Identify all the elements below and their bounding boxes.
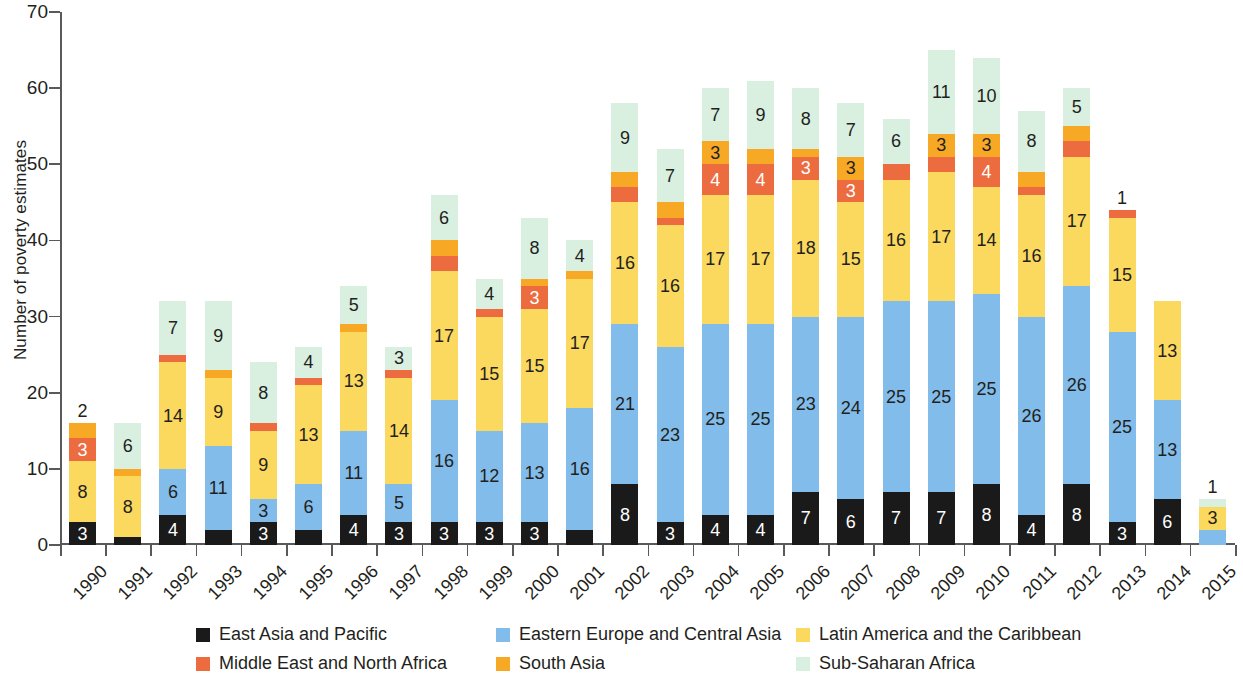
legend-swatch-icon xyxy=(496,657,510,671)
bar-1993[interactable]: 211919 xyxy=(205,301,232,545)
bar-2000[interactable]: 31315318 xyxy=(521,218,548,545)
bar-1997[interactable]: 351413 xyxy=(385,347,412,545)
segment-value: 6 xyxy=(304,498,314,516)
legend-label: Sub-Saharan Africa xyxy=(819,653,975,674)
x-axis-label-1992: 1992 xyxy=(145,561,202,618)
x-axis-label-1993: 1993 xyxy=(190,561,247,618)
x-axis-tick xyxy=(150,545,152,556)
bar-2010[interactable]: 825144310 xyxy=(973,58,1000,545)
bar-segment: 10 xyxy=(973,58,1000,134)
segment-value: 4 xyxy=(710,521,720,539)
legend-item[interactable]: South Asia xyxy=(496,649,796,678)
bar-segment: 1 xyxy=(1199,499,1226,507)
bar-segment: 26 xyxy=(1018,317,1045,515)
segment-value: 7 xyxy=(801,509,811,527)
bar-2006[interactable]: 72318318 xyxy=(792,88,819,545)
segment-value: 25 xyxy=(976,380,996,398)
bar-segment: 23 xyxy=(792,317,819,492)
bar-segment: 2 xyxy=(295,530,322,545)
bar-2012[interactable]: 82617225 xyxy=(1063,88,1090,545)
bar-segment: 25 xyxy=(702,324,729,514)
y-axis-tick-label: 30 xyxy=(10,306,48,328)
bar-1996[interactable]: 4111315 xyxy=(340,286,367,545)
bar-segment: 3 xyxy=(385,522,412,545)
bar-segment: 2 xyxy=(1063,141,1090,156)
bar-1991[interactable]: 1816 xyxy=(114,423,141,545)
bar-2011[interactable]: 42616128 xyxy=(1018,111,1045,545)
bar-1999[interactable]: 3121514 xyxy=(476,279,503,545)
bar-segment: 3 xyxy=(69,438,96,461)
segment-value: 9 xyxy=(213,327,223,345)
y-axis-tick-label: 60 xyxy=(10,77,48,99)
bar-segment: 3 xyxy=(792,157,819,180)
segment-value: 9 xyxy=(620,129,630,147)
bar-segment: 2 xyxy=(431,256,458,271)
segment-value: 3 xyxy=(258,525,268,543)
legend-item[interactable]: East Asia and Pacific xyxy=(196,620,496,649)
segment-value: 3 xyxy=(1207,509,1217,527)
bar-segment: 2 xyxy=(928,157,955,172)
bar-2013[interactable]: 325151 xyxy=(1109,210,1136,545)
x-axis-label-2004: 2004 xyxy=(687,561,744,618)
legend-item[interactable]: Latin America and the Caribbean xyxy=(796,620,1126,649)
bar-segment: 25 xyxy=(1109,332,1136,522)
bar-segment: 4 xyxy=(340,515,367,545)
y-axis-tick xyxy=(49,87,60,89)
x-axis-tick xyxy=(602,545,604,556)
segment-value: 10 xyxy=(976,87,996,105)
y-axis-tick-label: 10 xyxy=(10,458,48,480)
bar-segment: 3 xyxy=(250,522,277,545)
segment-value: 11 xyxy=(209,479,228,497)
x-axis-tick xyxy=(60,545,62,556)
segment-value: 14 xyxy=(389,422,409,440)
segment-value: 5 xyxy=(1072,98,1082,116)
bar-segment: 3 xyxy=(1109,522,1136,545)
bar-1995[interactable]: 261314 xyxy=(295,347,322,545)
bar-segment: 8 xyxy=(1018,111,1045,172)
plot-area: 010203040506070 383218164614172119193391… xyxy=(60,12,1235,545)
segment-value: 11 xyxy=(932,83,951,101)
bar-segment: 15 xyxy=(1109,218,1136,332)
bar-1994[interactable]: 33918 xyxy=(250,362,277,545)
bar-2008[interactable]: 7251626 xyxy=(883,119,910,545)
bar-2001[interactable]: 2161714 xyxy=(566,240,593,545)
bar-2002[interactable]: 82116229 xyxy=(611,103,638,545)
y-axis-tick xyxy=(49,11,60,13)
x-axis-label-2013: 2013 xyxy=(1094,561,1151,618)
bar-1990[interactable]: 3832 xyxy=(69,423,96,545)
bar-segment: 9 xyxy=(250,431,277,500)
bar-2007[interactable]: 62415337 xyxy=(837,103,864,545)
bar-segment: 23 xyxy=(657,347,684,522)
bar-segment: 7 xyxy=(883,492,910,545)
segment-value: 3 xyxy=(665,525,675,543)
bar-2003[interactable]: 32316127 xyxy=(657,149,684,545)
bar-2009[interactable]: 725172311 xyxy=(928,50,955,545)
bar-segment: 9 xyxy=(205,301,232,370)
segment-value: 14 xyxy=(163,407,183,425)
bar-segment: 2 xyxy=(1018,172,1045,187)
bar-segment: 8 xyxy=(973,484,1000,545)
bar-2015[interactable]: 231 xyxy=(1199,499,1226,545)
x-axis-tick xyxy=(1190,545,1192,556)
bar-2005[interactable]: 42517429 xyxy=(747,81,774,545)
bar-segment: 12 xyxy=(476,431,503,522)
legend-label: Middle East and North Africa xyxy=(219,653,447,674)
bar-segment: 25 xyxy=(747,324,774,514)
bar-1998[interactable]: 31617226 xyxy=(431,195,458,545)
segment-value: 16 xyxy=(434,452,454,470)
bar-segment: 1 xyxy=(385,370,412,378)
legend-item[interactable]: Eastern Europe and Central Asia xyxy=(496,620,796,649)
bar-segment: 6 xyxy=(295,484,322,530)
segment-value: 25 xyxy=(886,388,906,406)
bar-segment: 9 xyxy=(611,103,638,172)
legend-item[interactable]: Sub-Saharan Africa xyxy=(796,649,1126,678)
bar-segment: 3 xyxy=(476,522,503,545)
segment-value: 4 xyxy=(755,521,765,539)
bar-1992[interactable]: 461417 xyxy=(159,301,186,545)
bar-segment: 3 xyxy=(973,134,1000,157)
bar-2004[interactable]: 42517437 xyxy=(702,88,729,545)
segment-value: 17 xyxy=(705,250,725,268)
legend-item[interactable]: Middle East and North Africa xyxy=(196,649,496,678)
segment-value: 3 xyxy=(439,525,449,543)
bar-2014[interactable]: 61313 xyxy=(1154,301,1181,545)
